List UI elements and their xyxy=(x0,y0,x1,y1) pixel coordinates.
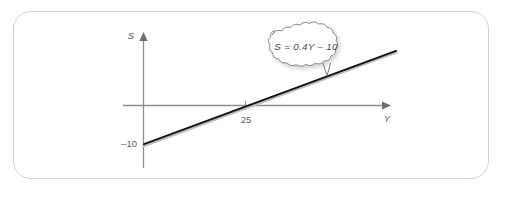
data-line-group xyxy=(144,51,396,146)
axes-group xyxy=(123,32,391,168)
y-axis-title: S xyxy=(128,30,135,41)
data-line-shadow xyxy=(144,52,396,145)
x-axis-arrowhead xyxy=(382,101,391,109)
y-axis-arrowhead xyxy=(139,32,147,41)
equation-label: S = 0.4Y – 10 xyxy=(274,41,338,52)
data-line-s-equals-0-4y-minus-10 xyxy=(144,51,396,144)
x-tick-label-25: 25 xyxy=(241,114,252,125)
y-tick-label-neg10: –10 xyxy=(121,138,137,149)
x-axis-title: Y xyxy=(384,113,391,124)
callout-tail xyxy=(323,63,331,76)
figure-root: S Y 25 –10 S = 0.4Y – 10 xyxy=(0,0,506,197)
line-chart-plot: S Y 25 –10 S = 0.4Y – 10 xyxy=(0,0,506,197)
